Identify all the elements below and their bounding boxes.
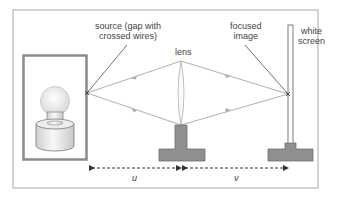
focused-image-line1: focused	[230, 21, 262, 31]
white-screen-line2: screen	[298, 36, 325, 46]
focused-image-line2: image	[230, 31, 262, 41]
light-rays	[87, 61, 288, 125]
white-screen	[288, 25, 293, 145]
optics-diagram	[0, 0, 341, 200]
white-screen-line1: white	[298, 26, 325, 36]
lens-label: lens	[175, 47, 192, 57]
lens-holder	[159, 125, 205, 161]
bulb-icon	[41, 87, 70, 116]
source-label: source (gap with crossed wires)	[95, 21, 161, 41]
lens-icon	[178, 61, 184, 125]
v-label: v	[234, 173, 239, 183]
source-label-line1: source (gap with	[95, 21, 161, 31]
lamp-box	[24, 56, 87, 160]
image-pointer	[245, 45, 288, 94]
source-label-line2: crossed wires)	[95, 31, 161, 41]
focused-image-label: focused image	[230, 21, 262, 41]
white-screen-label: white screen	[298, 26, 325, 46]
u-label: u	[132, 173, 137, 183]
screen-holder	[268, 143, 313, 161]
